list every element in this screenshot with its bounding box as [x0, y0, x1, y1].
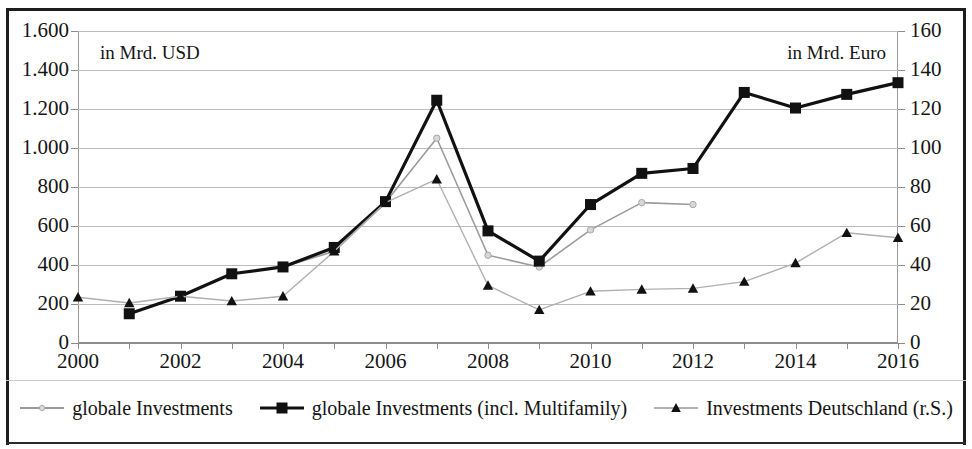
x-axis-tick-label: 2008 [467, 349, 509, 374]
data-point [739, 87, 750, 98]
y-axis-left-tick-label: 400 [38, 254, 70, 275]
y-axis-left-tickmark [71, 187, 78, 188]
data-point [690, 201, 696, 207]
x-axis-tick-label: 2006 [365, 349, 407, 374]
x-axis-tick-label: 2014 [775, 349, 817, 374]
data-point [790, 103, 801, 114]
data-point [534, 256, 545, 267]
chart-figure: 02004006008001.0001.2001.4001.600 020406… [0, 0, 972, 449]
x-axis-tickmark [744, 343, 745, 349]
data-point [483, 280, 493, 289]
data-point [739, 276, 749, 285]
series-line [78, 179, 898, 310]
y-axis-left-tick-label: 200 [38, 293, 70, 314]
y-axis-left-tick-label: 600 [38, 215, 70, 236]
y-axis-right-tickmark [898, 31, 905, 32]
y-axis-right-tick-label: 160 [910, 20, 942, 41]
y-axis-left-tickmark [71, 31, 78, 32]
x-axis-tick-label: 2016 [877, 349, 919, 374]
x-axis-tickmark [847, 343, 848, 349]
y-axis-left-tick-label: 800 [38, 176, 70, 197]
data-point [226, 268, 237, 279]
x-axis-tick-label: 2000 [57, 349, 99, 374]
y-axis-right-tickmark [898, 265, 905, 266]
y-axis-left-tickmark [71, 148, 78, 149]
legend-item-label: globale Investments [72, 397, 233, 420]
data-point [73, 292, 83, 301]
x-axis-tick-label: 2012 [672, 349, 714, 374]
series-line [129, 83, 898, 314]
data-point [841, 89, 852, 100]
filled-triangle-marker [653, 399, 699, 417]
x-axis-tickmark [334, 343, 335, 349]
series-filled-square-marker [124, 77, 904, 319]
x-axis-tickmark [232, 343, 233, 349]
legend-marker [40, 405, 45, 410]
data-point [434, 135, 440, 141]
data-point [432, 174, 442, 183]
y-axis-left-tickmark [71, 226, 78, 227]
data-point [534, 305, 544, 314]
data-point [893, 77, 904, 88]
small-dot-marker [19, 399, 65, 417]
y-axis-right-tickmark [898, 70, 905, 71]
filled-square-marker [259, 399, 305, 417]
x-axis-tick-label: 2010 [570, 349, 612, 374]
plot-area: 02004006008001.0001.2001.4001.600 020406… [78, 31, 898, 343]
y-axis-right-tickmark [898, 109, 905, 110]
y-axis-right-tick-label: 120 [910, 98, 942, 119]
x-axis-tickmark [539, 343, 540, 349]
data-point [431, 95, 442, 106]
y-axis-left-tickmark [71, 343, 78, 344]
data-point [688, 163, 699, 174]
x-axis-tickmark [642, 343, 643, 349]
data-point [842, 228, 852, 237]
x-axis-tick-label: 2002 [160, 349, 202, 374]
y-axis-right-tick-label: 140 [910, 59, 942, 80]
y-axis-left-tick-label: 1.400 [22, 59, 69, 80]
legend-item: Investments Deutschland (r.S.) [653, 397, 953, 420]
y-axis-right-tickmark [898, 148, 905, 149]
data-point [639, 199, 645, 205]
x-axis-tickmark [437, 343, 438, 349]
y-axis-right-tickmark [898, 304, 905, 305]
y-axis-right-tick-label: 60 [910, 215, 931, 236]
data-point [124, 308, 135, 319]
data-point [485, 252, 491, 258]
legend-item: globale Investments (incl. Multifamily) [259, 397, 628, 420]
data-point [587, 227, 593, 233]
y-axis-left-tickmark [71, 265, 78, 266]
y-axis-right-tick-label: 20 [910, 293, 931, 314]
data-point [278, 261, 289, 272]
x-axis-tick-label: 2004 [262, 349, 304, 374]
legend-divider [6, 380, 966, 381]
series-line [129, 138, 693, 314]
figure-border-top [6, 8, 966, 11]
series-plot [78, 31, 898, 343]
legend-item: globale Investments [19, 397, 233, 420]
y-axis-right-tick-label: 100 [910, 137, 942, 158]
x-axis-tickmark [129, 343, 130, 349]
chart-legend: globale Investmentsglobale Investments (… [6, 388, 966, 428]
y-axis-right-tickmark [898, 226, 905, 227]
y-axis-left-tickmark [71, 109, 78, 110]
y-axis-right-tickmark [898, 343, 905, 344]
legend-item-label: Investments Deutschland (r.S.) [706, 397, 953, 420]
legend-item-label: globale Investments (incl. Multifamily) [312, 397, 628, 420]
series-filled-triangle-marker [73, 174, 903, 314]
series-small-dot-marker [126, 135, 696, 317]
y-axis-left-tickmark [71, 70, 78, 71]
data-point [636, 168, 647, 179]
y-axis-left-tick-label: 1.600 [22, 20, 69, 41]
figure-border-bottom [6, 442, 966, 444]
data-point [483, 225, 494, 236]
y-axis-right-tickmark [898, 187, 905, 188]
y-axis-left-tick-label: 1.200 [22, 98, 69, 119]
y-axis-right-tick-label: 40 [910, 254, 931, 275]
y-axis-left-tickmark [71, 304, 78, 305]
data-point [585, 199, 596, 210]
data-point [790, 258, 800, 267]
legend-marker [276, 403, 287, 414]
y-axis-right-tick-label: 80 [910, 176, 931, 197]
y-axis-left-tick-label: 1.000 [22, 137, 69, 158]
